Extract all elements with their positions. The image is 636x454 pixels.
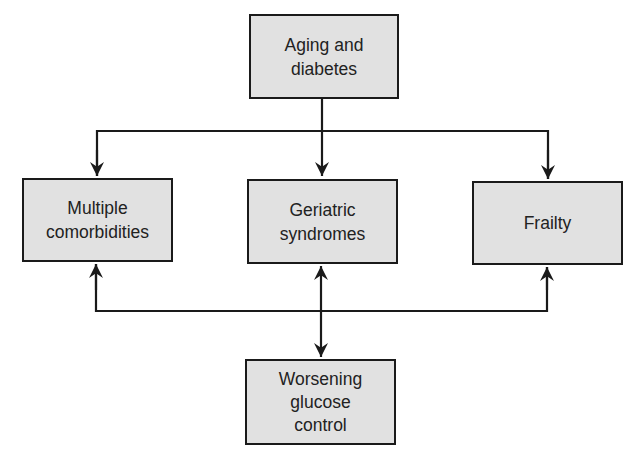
node-label: Aging and diabetes (285, 33, 364, 81)
node-worsening-glucose-control: Worsening glucose control (245, 359, 396, 445)
node-aging-and-diabetes: Aging and diabetes (249, 14, 399, 99)
node-label: Frailty (524, 211, 572, 235)
node-frailty: Frailty (472, 181, 623, 265)
node-multiple-comorbidities: Multiple comorbidities (22, 178, 173, 262)
node-geriatric-syndromes: Geriatric syndromes (247, 179, 398, 264)
top-fanout-connector (97, 98, 548, 179)
node-label: Geriatric syndromes (280, 198, 366, 246)
node-label: Multiple comorbidities (46, 196, 149, 244)
node-label: Worsening glucose control (279, 368, 362, 437)
